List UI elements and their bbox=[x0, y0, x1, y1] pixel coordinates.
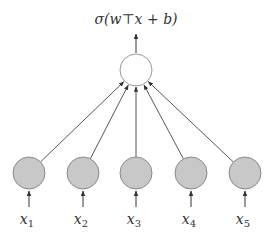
input-label-x5: x5 bbox=[236, 211, 250, 229]
input-label-x1: x1 bbox=[20, 211, 34, 229]
output-node bbox=[120, 54, 152, 86]
edge-x1 bbox=[41, 82, 124, 162]
input-label-x3: x3 bbox=[127, 211, 141, 229]
neuron-diagram: x1x2x3x4x5 σ(w⊤x + b) bbox=[0, 0, 272, 236]
input-node-x2 bbox=[67, 157, 99, 189]
input-node-x4 bbox=[175, 157, 207, 189]
input-node-x1 bbox=[13, 157, 45, 189]
output-label: σ(w⊤x + b) bbox=[94, 11, 177, 27]
input-node-x3 bbox=[120, 157, 152, 189]
input-node-x5 bbox=[229, 157, 261, 189]
input-label-x2: x2 bbox=[74, 211, 88, 229]
input-label-x4: x4 bbox=[182, 211, 196, 229]
edge-x5 bbox=[148, 82, 233, 162]
